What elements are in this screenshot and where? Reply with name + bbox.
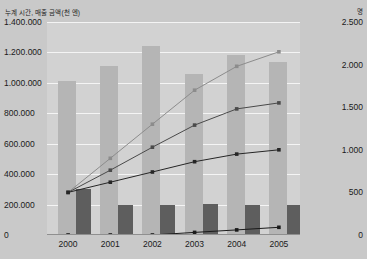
line-marker-2002-series-2 bbox=[151, 145, 155, 149]
line-series-3 bbox=[68, 150, 279, 193]
x-axis-tick-label-2002: 2002 bbox=[132, 240, 172, 249]
line-marker-2001-series-2 bbox=[109, 168, 113, 172]
line-marker-2003-series-2 bbox=[193, 123, 197, 127]
line-marker-2003-series-1 bbox=[193, 88, 197, 92]
left-axis-tick-label: 200.000 bbox=[4, 201, 35, 210]
lines-layer bbox=[47, 22, 300, 235]
line-marker-2001-series-3 bbox=[109, 180, 113, 184]
right-axis-tick-label: 0 bbox=[358, 231, 363, 240]
left-axis-tick-label: 600.000 bbox=[4, 140, 35, 149]
axis-baseline bbox=[47, 234, 300, 235]
right-axis-tick-label: 500 bbox=[349, 188, 363, 197]
right-axis-unit-label: 명 bbox=[357, 6, 363, 16]
line-marker-2001-series-1 bbox=[109, 157, 113, 161]
right-axis-tick-label: 1.500 bbox=[342, 103, 363, 112]
line-marker-2004-series-3 bbox=[235, 152, 239, 156]
left-axis-unit-label: 누계 시간, 매출 금액(천 엔) bbox=[5, 7, 80, 17]
line-marker-2000-series-3 bbox=[66, 191, 70, 195]
x-axis-tick-label-2003: 2003 bbox=[175, 240, 215, 249]
left-axis-tick-label: 400.000 bbox=[4, 170, 35, 179]
line-marker-2004-series-1 bbox=[235, 65, 239, 69]
line-marker-2005-series-4 bbox=[277, 226, 281, 230]
left-axis-tick-label: 1.400.000 bbox=[4, 18, 42, 27]
line-series-2 bbox=[68, 103, 279, 192]
line-marker-2004-series-4 bbox=[235, 228, 239, 232]
left-axis-tick-label: 1.200.000 bbox=[4, 48, 42, 57]
plot-area bbox=[47, 22, 300, 235]
left-axis-tick-label: 1.000.000 bbox=[4, 79, 42, 88]
line-series-1 bbox=[68, 52, 279, 193]
line-marker-2003-series-3 bbox=[193, 160, 197, 164]
right-axis-tick-label: 2.500 bbox=[342, 18, 363, 27]
right-axis-tick-label: 1.000 bbox=[342, 146, 363, 155]
left-axis-tick-label: 0 bbox=[4, 231, 9, 240]
chart-container: 누계 시간, 매출 금액(천 엔) 명 1.400.0001.200.0001.… bbox=[0, 0, 367, 259]
line-marker-2002-series-3 bbox=[151, 170, 155, 174]
line-marker-2004-series-2 bbox=[235, 107, 239, 111]
line-marker-2002-series-1 bbox=[151, 122, 155, 126]
x-axis-tick-label-2000: 2000 bbox=[48, 240, 88, 249]
x-axis-tick-label-2004: 2004 bbox=[217, 240, 257, 249]
left-axis-tick-label: 800.000 bbox=[4, 109, 35, 118]
line-marker-2005-series-1 bbox=[277, 50, 281, 54]
line-marker-2005-series-3 bbox=[277, 148, 281, 152]
right-axis-tick-label: 2.000 bbox=[342, 61, 363, 70]
x-axis-tick-label-2001: 2001 bbox=[90, 240, 130, 249]
line-marker-2005-series-2 bbox=[277, 101, 281, 105]
x-axis-tick-label-2005: 2005 bbox=[259, 240, 299, 249]
